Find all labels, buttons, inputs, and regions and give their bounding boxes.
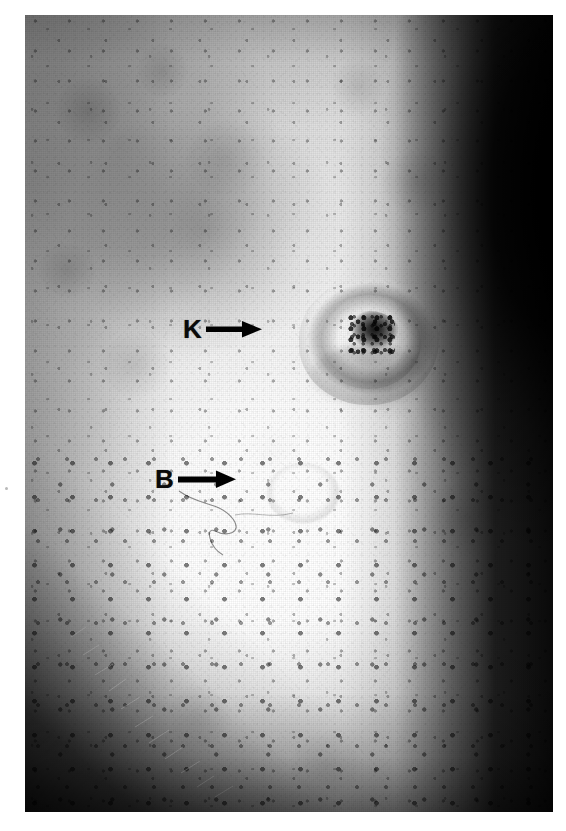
annotation-marker-k: K bbox=[183, 316, 262, 342]
figure-page: K B bbox=[0, 0, 566, 831]
halftone-dots bbox=[25, 15, 553, 812]
annotation-label-k: K bbox=[183, 316, 202, 342]
annotation-marker-b: B bbox=[155, 466, 236, 492]
annotation-arrow-k-right-arrow bbox=[206, 318, 262, 340]
clinical-photograph bbox=[25, 15, 553, 812]
paper-speck bbox=[5, 487, 8, 490]
annotation-arrow-b-right-arrow bbox=[178, 468, 236, 490]
annotation-label-b: B bbox=[155, 466, 174, 492]
